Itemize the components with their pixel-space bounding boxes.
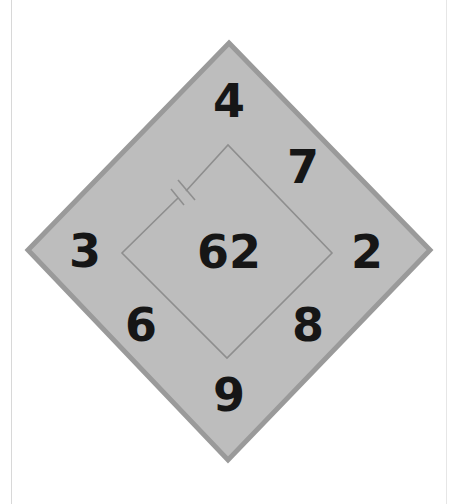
number-right: 2 <box>351 225 383 279</box>
number-bottom: 9 <box>213 368 245 422</box>
number-left: 3 <box>69 224 101 278</box>
number-top: 4 <box>213 74 245 128</box>
number-lower-left: 6 <box>125 298 157 352</box>
number-lower-right: 8 <box>292 298 324 352</box>
number-center: 62 <box>197 225 261 279</box>
puzzle-page: 4 7 3 62 2 6 8 9 <box>0 0 464 504</box>
number-upper-right: 7 <box>287 140 319 194</box>
diamond-puzzle: 4 7 3 62 2 6 8 9 <box>0 0 464 504</box>
